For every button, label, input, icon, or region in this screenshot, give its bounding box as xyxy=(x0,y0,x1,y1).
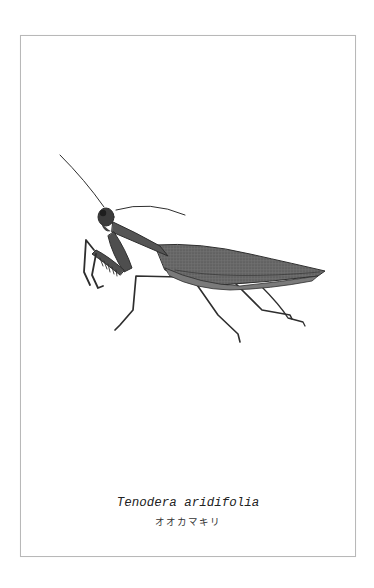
antenna-right xyxy=(116,206,185,215)
mid-leg-front xyxy=(115,276,180,330)
eye xyxy=(100,210,106,216)
mid-leg-back xyxy=(195,282,240,342)
scientific-name: Tenodera aridifolia xyxy=(20,496,356,510)
head xyxy=(98,208,114,226)
hind-leg-2 xyxy=(260,285,305,326)
front-leg-tibia-1 xyxy=(84,240,94,285)
antenna-left xyxy=(60,155,104,207)
common-name: オオカマキリ xyxy=(20,514,356,528)
